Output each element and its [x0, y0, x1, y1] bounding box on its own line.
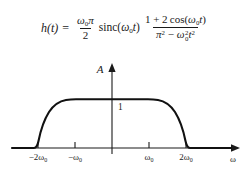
spectrum-plot-svg: A 1 −2ω0 −ω0 ω0 2ω0 ω — [0, 56, 251, 174]
xtick-label-minus-2w0: −2ω0 — [29, 152, 48, 163]
xtick-label-minus-w0: −ω0 — [68, 152, 82, 163]
y-value-label-1: 1 — [118, 102, 123, 112]
fraction-denominator: π2 − ω20t2 — [153, 27, 198, 41]
plot-area: A 1 −2ω0 −ω0 ω0 2ω0 ω — [0, 56, 251, 174]
prefactor-fraction: ω0π 2 — [74, 15, 97, 41]
equation-equals-sign: = — [62, 22, 69, 34]
equation-row: h(t) = ω0π 2 sinc(ω0t) 1 + 2 cos(ω0t) π2… — [41, 14, 210, 41]
equation-lhs: h(t) — [41, 22, 58, 34]
sinc-term: sinc(ω0t) — [99, 22, 140, 35]
main-fraction: 1 + 2 cos(ω0t) π2 − ω20t2 — [142, 14, 209, 41]
equation-block: h(t) = ω0π 2 sinc(ω0t) 1 + 2 cos(ω0t) π2… — [0, 0, 251, 56]
x-axis-arrowhead — [231, 144, 240, 152]
y-axis-arrowhead — [108, 63, 115, 72]
xtick-label-2w0: 2ω0 — [179, 152, 192, 163]
prefactor-denominator: 2 — [80, 28, 92, 42]
x-axis-label: ω — [230, 154, 236, 164]
y-axis-label: A — [96, 63, 104, 75]
xtick-label-w0: ω0 — [145, 152, 154, 163]
prefactor-numerator: ω0π — [74, 15, 97, 28]
fraction-numerator: 1 + 2 cos(ω0t) — [142, 14, 209, 27]
